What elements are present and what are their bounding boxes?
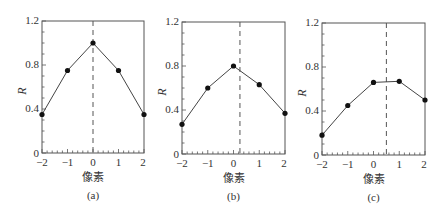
panel-a-labels: 1.2 0.8 0.4 0 −2 −1 0 1 2 R 像素 (a): [15, 14, 146, 202]
x-tick-1: 1: [116, 156, 122, 168]
x-tick--1: −1: [202, 157, 214, 169]
labels-layer: 1.2 0.8 0.4 0 −2 −1 0 1 2 R 像素 (a) 1.2 0…: [0, 0, 441, 210]
x-tick-1: 1: [397, 158, 403, 170]
x-tick-0: 0: [231, 157, 237, 169]
x-axis-title: 像素: [363, 173, 385, 186]
x-tick-2: 2: [140, 156, 146, 168]
x-tick-0: 0: [90, 156, 96, 168]
x-axis-title: 像素: [82, 171, 104, 184]
panel-caption: (c): [367, 191, 380, 204]
x-tick--2: −2: [176, 157, 188, 169]
x-tick-2: 2: [421, 158, 427, 170]
x-tick--1: −1: [62, 156, 74, 168]
y-tick-1.2: 1.2: [305, 16, 319, 28]
y-tick-0.8: 0.8: [25, 58, 39, 70]
x-tick--1: −1: [342, 158, 354, 170]
y-axis-title: R: [155, 88, 169, 97]
y-axis-title: R: [15, 87, 29, 96]
panel-caption: (b): [227, 190, 240, 203]
x-tick-0: 0: [371, 158, 377, 170]
panel-b-labels: 1.2 0.8 0.4 0 −2 −1 0 1 2 R 像素 (b): [155, 15, 287, 203]
x-axis-title: 像素: [223, 172, 245, 185]
x-tick--2: −2: [316, 158, 328, 170]
x-tick--2: −2: [36, 156, 48, 168]
y-tick-0.4: 0.4: [25, 102, 39, 114]
y-tick-0.8: 0.8: [305, 60, 319, 72]
x-tick-1: 1: [257, 157, 263, 169]
panel-caption: (a): [87, 189, 100, 202]
y-tick-1.2: 1.2: [25, 14, 39, 26]
y-axis-title: R: [295, 89, 309, 98]
x-tick-2: 2: [281, 157, 287, 169]
y-tick-0.8: 0.8: [165, 59, 179, 71]
y-tick-1.2: 1.2: [165, 15, 179, 27]
y-tick-0.4: 0.4: [305, 104, 319, 116]
panel-c-labels: 1.2 0.8 0.4 0 −2 −1 0 1 2 R 像素 (c): [295, 16, 427, 204]
y-tick-0.4: 0.4: [165, 103, 179, 115]
